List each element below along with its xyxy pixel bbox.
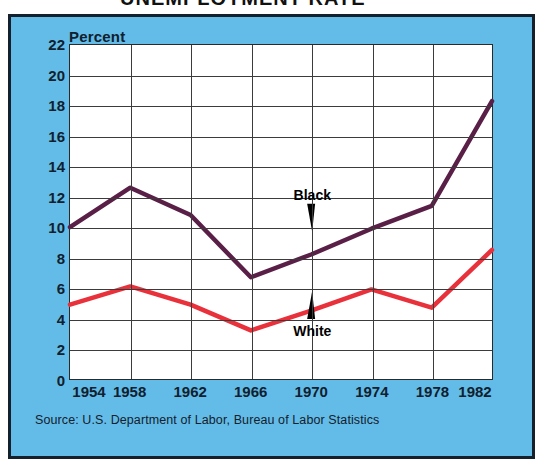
- x-tick-label: 1962: [173, 383, 206, 400]
- x-tick-label: 1978: [416, 383, 449, 400]
- gridline-horizontal: [70, 106, 492, 107]
- y-axis-tick-labels: 0246810121416182022: [11, 44, 65, 380]
- gridline-horizontal: [70, 320, 492, 321]
- black-series-label: Black: [294, 187, 331, 203]
- y-tick-label: 6: [17, 280, 65, 297]
- gridline-horizontal: [70, 350, 492, 351]
- y-axis-title: Percent: [69, 28, 125, 45]
- gridline-vertical: [131, 45, 132, 379]
- y-tick-label: 18: [17, 97, 65, 114]
- y-tick-label: 14: [17, 158, 65, 175]
- y-tick-label: 10: [17, 219, 65, 236]
- chart-panel: Percent 0246810121416182022 BlackWhite 1…: [8, 14, 535, 459]
- gridline-vertical: [191, 45, 192, 379]
- gridline-horizontal: [70, 137, 492, 138]
- y-tick-label: 22: [17, 36, 65, 53]
- x-tick-label: 1970: [295, 383, 328, 400]
- chart-title-text: UNEMPLOYMENT RATE: [120, 0, 366, 10]
- chart-title-clipped: UNEMPLOYMENT RATE: [0, 0, 543, 14]
- gridline-horizontal: [70, 167, 492, 168]
- gridline-horizontal: [70, 228, 492, 229]
- x-tick-label: 1954: [72, 383, 105, 400]
- y-tick-label: 8: [17, 249, 65, 266]
- y-tick-label: 16: [17, 127, 65, 144]
- gridline-vertical: [433, 45, 434, 379]
- series-lines: [70, 45, 492, 379]
- x-tick-label: 1982: [458, 383, 491, 400]
- x-tick-label: 1966: [234, 383, 267, 400]
- gridline-horizontal: [70, 76, 492, 77]
- y-tick-label: 12: [17, 188, 65, 205]
- gridline-horizontal: [70, 259, 492, 260]
- gridline-vertical: [252, 45, 253, 379]
- leader-arrow-white: [307, 291, 315, 319]
- gridline-vertical: [373, 45, 374, 379]
- y-tick-label: 0: [17, 372, 65, 389]
- gridline-horizontal: [70, 289, 492, 290]
- y-tick-label: 2: [17, 341, 65, 358]
- x-tick-label: 1958: [113, 383, 146, 400]
- plot-area: BlackWhite: [69, 44, 493, 380]
- x-axis-tick-labels: 19541958196219661970197419781982: [69, 383, 493, 407]
- source-note: Source: U.S. Department of Labor, Bureau…: [35, 413, 379, 427]
- series-line-black: [70, 101, 492, 277]
- x-tick-label: 1974: [355, 383, 388, 400]
- y-tick-label: 4: [17, 310, 65, 327]
- white-series-label: White: [293, 323, 331, 339]
- y-tick-label: 20: [17, 66, 65, 83]
- gridline-horizontal: [70, 198, 492, 199]
